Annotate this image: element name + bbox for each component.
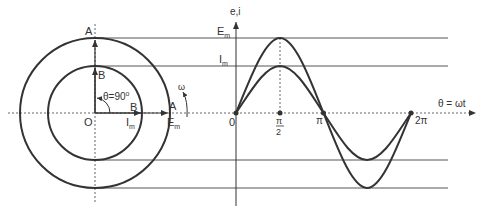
tick-zero: 0 bbox=[229, 116, 235, 128]
inner-top-label: B bbox=[98, 69, 105, 81]
angle-label: θ=90o bbox=[103, 90, 130, 102]
phasor-em-label: Em bbox=[167, 116, 180, 130]
point-two-pi bbox=[409, 111, 414, 116]
point-half-pi bbox=[278, 111, 283, 116]
tick-half-pi-num: π bbox=[276, 116, 282, 126]
tick-two-pi: 2π bbox=[415, 115, 428, 126]
inner-right-label: B bbox=[130, 101, 137, 113]
phasor-im-label: Im bbox=[126, 116, 135, 130]
tick-pi: π bbox=[316, 115, 323, 126]
outer-top-label: A bbox=[85, 25, 93, 37]
point-zero bbox=[234, 111, 239, 116]
y-axis-label: e,i bbox=[230, 6, 241, 17]
tick-half-pi-den: 2 bbox=[276, 127, 281, 137]
x-axis-label: θ = ωt bbox=[438, 98, 466, 109]
em-axis-label: Em bbox=[217, 25, 230, 39]
outer-right-label: A bbox=[169, 100, 177, 112]
origin-label: O bbox=[84, 116, 93, 128]
phasor-waveform-diagram: A B θ=90o B A O Im Em ω e,i Em Im 0 π 2 … bbox=[0, 0, 495, 211]
omega-label: ω bbox=[178, 82, 185, 92]
im-axis-label: Im bbox=[219, 53, 228, 67]
